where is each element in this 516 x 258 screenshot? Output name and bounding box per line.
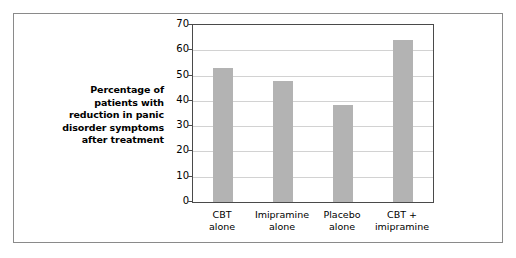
plot-area (192, 24, 434, 203)
bar (333, 105, 353, 202)
y-axis-caption: Percentage of patients with reduction in… (38, 84, 164, 147)
y-axis-tick-label: 30 (155, 120, 189, 130)
caption-line-2: patients with (38, 97, 164, 110)
caption-line-4: disorder symptoms (38, 122, 164, 135)
caption-line-3: reduction in panic (38, 109, 164, 122)
bar (213, 68, 233, 202)
x-axis-tick-label: CBT +imipramine (364, 209, 440, 232)
y-axis-tick-label: 10 (155, 171, 189, 181)
x-axis-label-line: CBT + (364, 209, 440, 221)
bar-chart-figure: Percentage of patients with reduction in… (0, 0, 516, 258)
y-axis-tick-label: 0 (155, 196, 189, 206)
plot-wrapper: 010203040506070 CBTaloneImipraminealoneP… (167, 24, 442, 206)
caption-line-5: after treatment (38, 134, 164, 147)
y-axis-tick-label: 40 (155, 95, 189, 105)
x-axis-label-line: imipramine (364, 221, 440, 233)
y-axis-tick-label: 60 (155, 44, 189, 54)
caption-line-1: Percentage of (38, 84, 164, 97)
y-axis-tick-label: 20 (155, 145, 189, 155)
bar (273, 81, 293, 202)
y-axis-tick-label: 70 (155, 19, 189, 29)
bar (393, 40, 413, 202)
bar-series (193, 25, 433, 202)
y-axis-tick-label: 50 (155, 70, 189, 80)
